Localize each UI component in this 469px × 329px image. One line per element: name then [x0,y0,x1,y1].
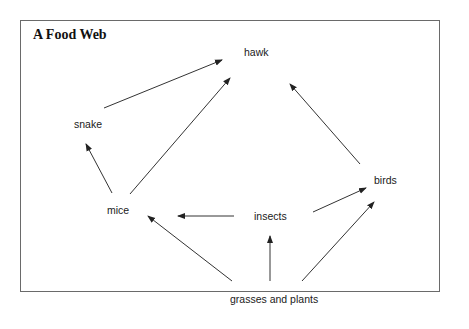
node-hawk: hawk [244,47,269,58]
diagram-title: A Food Web [33,27,107,43]
node-insects: insects [254,211,287,222]
diagram-frame [20,20,440,292]
node-birds: birds [374,175,397,186]
node-grasses-and-plants: grasses and plants [230,294,318,305]
node-mice: mice [107,205,129,216]
node-snake: snake [74,119,102,130]
